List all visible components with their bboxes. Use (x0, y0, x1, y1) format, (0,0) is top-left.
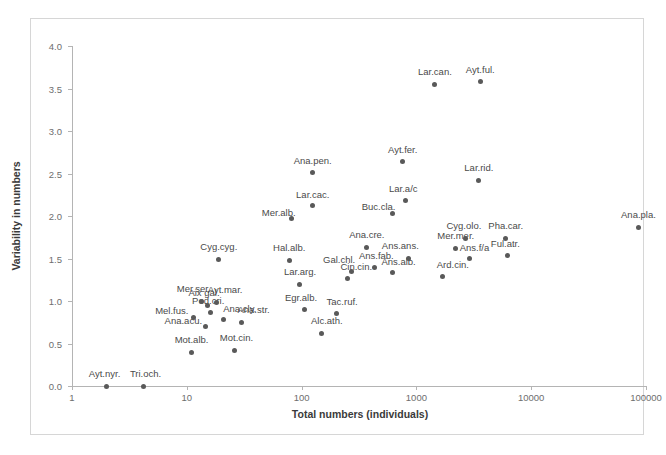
figure-frame (30, 18, 644, 435)
y-axis-title: Variability in numbers (10, 161, 22, 270)
x-tick-mark (646, 386, 647, 390)
